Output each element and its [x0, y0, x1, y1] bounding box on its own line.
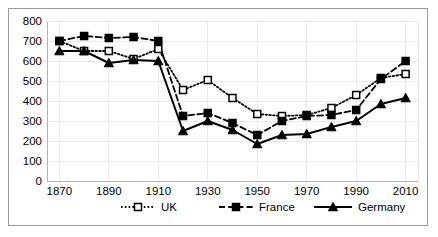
legend-label-france: France: [259, 201, 295, 213]
data-point: [105, 48, 112, 55]
y-tick-label: 200: [23, 135, 42, 147]
y-tick-label: 300: [23, 115, 42, 127]
x-tick-label: 2010: [393, 185, 419, 197]
x-tick-label: 1930: [195, 185, 221, 197]
data-point: [254, 111, 261, 118]
data-point: [402, 71, 409, 78]
data-point: [155, 38, 162, 45]
legend-item-france[interactable]: France: [219, 201, 295, 213]
y-tick-label: 800: [23, 15, 42, 27]
data-point: [130, 34, 137, 41]
data-point: [229, 95, 236, 102]
x-tick-label: 1870: [47, 185, 73, 197]
x-tick-label: 1970: [294, 185, 320, 197]
data-point: [353, 92, 360, 99]
x-tick-label: 1990: [343, 185, 369, 197]
y-tick-label: 0: [36, 175, 42, 187]
data-point: [328, 105, 335, 112]
data-point: [56, 38, 63, 45]
data-point: [180, 113, 187, 120]
data-point: [377, 76, 384, 83]
chart-figure: 0100200300400500600700800187018901910193…: [8, 8, 428, 226]
legend-marker-france: [233, 204, 240, 211]
x-tick-label: 1910: [146, 185, 172, 197]
legend-item-germany[interactable]: Germany: [314, 201, 406, 213]
data-point: [278, 118, 285, 125]
data-point: [353, 107, 360, 114]
legend-label-germany: Germany: [358, 201, 406, 213]
data-point: [303, 113, 310, 120]
y-tick-label: 400: [23, 95, 42, 107]
data-point: [155, 46, 162, 53]
line-chart-plot: 0100200300400500600700800187018901910193…: [9, 9, 427, 225]
x-tick-label: 1950: [244, 185, 270, 197]
x-tick-label: 1890: [96, 185, 122, 197]
data-point: [254, 132, 261, 139]
y-tick-label: 500: [23, 75, 42, 87]
data-point: [81, 33, 88, 40]
legend-item-uk[interactable]: UK: [121, 201, 177, 213]
data-point: [401, 93, 410, 101]
legend-marker-uk: [135, 204, 142, 211]
y-tick-label: 600: [23, 55, 42, 67]
y-tick-label: 700: [23, 35, 42, 47]
data-point: [402, 58, 409, 65]
data-point: [105, 35, 112, 42]
data-point: [328, 112, 335, 119]
data-point: [204, 77, 211, 84]
legend-label-uk: UK: [161, 201, 177, 213]
data-point: [180, 87, 187, 94]
y-tick-label: 100: [23, 155, 42, 167]
